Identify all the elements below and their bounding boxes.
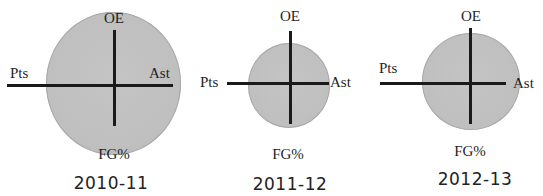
season-label: 2012-13 — [438, 170, 513, 188]
axis-label-pts: Pts — [200, 75, 218, 90]
axis-label-pts: Pts — [379, 61, 397, 76]
season-label: 2010-11 — [74, 174, 149, 192]
axis-label-pts: Pts — [10, 66, 28, 81]
axis-label-oe: OE — [461, 9, 481, 24]
axis-label-fg-pct: FG% — [454, 144, 486, 159]
pts-ast-axis-line — [7, 84, 173, 87]
axis-label-oe: OE — [104, 11, 124, 26]
pts-ast-axis-line — [227, 82, 329, 85]
axis-label-ast: Ast — [330, 75, 351, 90]
axis-label-fg-pct: FG% — [272, 147, 304, 162]
oe-fg-axis-line — [113, 30, 116, 126]
axis-label-oe: OE — [280, 9, 300, 24]
axis-label-fg-pct: FG% — [98, 147, 130, 162]
oe-fg-axis-line — [469, 28, 472, 124]
axis-label-ast: Ast — [149, 66, 170, 81]
oe-fg-axis-line — [289, 31, 292, 124]
pts-ast-axis-line — [380, 82, 506, 85]
season-glyph-diagram: OE Pts Ast FG% 2010-11 OE Pts Ast FG% 20… — [0, 0, 543, 196]
season-label: 2011-12 — [253, 175, 328, 193]
axis-label-ast: Ast — [513, 76, 534, 91]
